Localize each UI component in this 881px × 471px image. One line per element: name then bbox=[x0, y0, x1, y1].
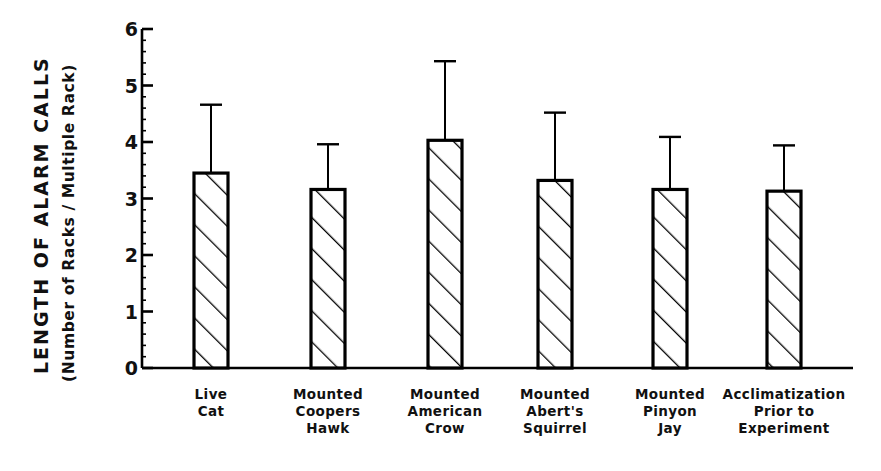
x-axis-category-label-line: American bbox=[408, 403, 483, 420]
y-axis-title: LENGTH OF ALARM CALLS bbox=[30, 56, 52, 374]
x-axis-category-label: MountedCoopersHawk bbox=[293, 386, 363, 437]
y-axis-tick-label: 5 bbox=[116, 75, 138, 97]
bar bbox=[311, 189, 345, 368]
chart-figure: LENGTH OF ALARM CALLS (Number of Racks /… bbox=[0, 0, 881, 471]
x-axis-category-label: MountedPinyonJay bbox=[635, 386, 705, 437]
x-axis-category-label-line: Acclimatization bbox=[723, 386, 846, 403]
x-axis-category-label-line: Abert's bbox=[520, 403, 590, 420]
x-axis-category-label-line: Jay bbox=[635, 420, 705, 437]
y-axis-tick-label: 4 bbox=[116, 131, 138, 153]
x-axis-category-label-line: Mounted bbox=[520, 386, 590, 403]
x-axis-category-label-line: Experiment bbox=[723, 420, 846, 437]
bar bbox=[194, 173, 228, 368]
axis-lines bbox=[142, 29, 853, 368]
bar bbox=[428, 140, 462, 368]
x-axis-category-label-line: Squirrel bbox=[520, 420, 590, 437]
x-axis-category-labels: LiveCatMountedCoopersHawkMountedAmerican… bbox=[0, 386, 881, 471]
x-axis-category-label-line: Prior to bbox=[723, 403, 846, 420]
y-axis-title-group: LENGTH OF ALARM CALLS (Number of Racks /… bbox=[0, 0, 70, 400]
x-axis-category-label-line: Coopers bbox=[293, 403, 363, 420]
x-axis-category-label-line: Cat bbox=[195, 403, 228, 420]
bars-group bbox=[194, 140, 801, 368]
x-axis-category-label: LiveCat bbox=[195, 386, 228, 420]
x-axis-category-label-line: Live bbox=[195, 386, 228, 403]
x-axis-category-label-line: Mounted bbox=[635, 386, 705, 403]
x-axis-category-label-line: Crow bbox=[408, 420, 483, 437]
x-axis-category-label-line: Mounted bbox=[293, 386, 363, 403]
bar bbox=[538, 180, 572, 368]
x-axis-category-label: MountedAbert'sSquirrel bbox=[520, 386, 590, 437]
y-axis-tick-label: 3 bbox=[116, 188, 138, 210]
x-axis-category-label-line: Mounted bbox=[408, 386, 483, 403]
bar bbox=[653, 189, 687, 368]
y-axis-tick-label: 1 bbox=[116, 301, 138, 323]
x-axis-category-label: MountedAmericanCrow bbox=[408, 386, 483, 437]
y-axis-tick-label: 6 bbox=[116, 18, 138, 40]
error-bars-group bbox=[200, 61, 795, 191]
y-axis-tick-label: 2 bbox=[116, 244, 138, 266]
x-axis-category-label-line: Pinyon bbox=[635, 403, 705, 420]
bar bbox=[767, 191, 801, 368]
x-axis-category-label-line: Hawk bbox=[293, 420, 363, 437]
x-axis-category-label: AcclimatizationPrior toExperiment bbox=[723, 386, 846, 437]
y-axis-subtitle: (Number of Racks / Multiple Rack) bbox=[60, 64, 78, 382]
y-axis-tick-label: 0 bbox=[116, 357, 138, 379]
